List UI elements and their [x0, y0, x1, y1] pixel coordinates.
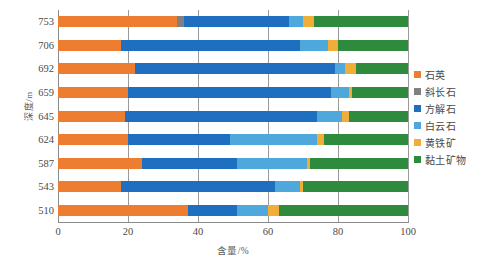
bar-segment[interactable]: [237, 158, 307, 169]
bar-row[interactable]: [58, 87, 408, 98]
legend-label: 方解石: [425, 101, 456, 116]
bar-row[interactable]: [58, 205, 408, 216]
bar-segment[interactable]: [237, 205, 269, 216]
bar-row[interactable]: [58, 40, 408, 51]
bar-segment[interactable]: [342, 111, 349, 122]
bar-segment[interactable]: [58, 181, 121, 192]
x-axis-line: [58, 222, 409, 223]
legend-item[interactable]: 白云石: [414, 117, 486, 134]
bar-segment[interactable]: [58, 16, 177, 27]
stacked-bar-chart: 深度/m 753706692659645624587543510 0204060…: [0, 0, 488, 271]
bar-segment[interactable]: [289, 16, 303, 27]
chart-legend: 石英斜长石方解石白云石黄铁矿黏土矿物: [414, 66, 486, 168]
x-tick-label: 60: [248, 226, 288, 237]
bar-segment[interactable]: [125, 111, 318, 122]
bar-segment[interactable]: [135, 63, 335, 74]
bar-segment[interactable]: [310, 158, 408, 169]
bar-segment[interactable]: [324, 134, 408, 145]
legend-swatch-icon: [414, 105, 421, 112]
bar-segment[interactable]: [184, 16, 289, 27]
legend-label: 斜长石: [425, 84, 456, 99]
x-tick-label: 0: [38, 226, 78, 237]
x-tick-label: 40: [178, 226, 218, 237]
bar-segment[interactable]: [58, 40, 121, 51]
plot-area: [58, 10, 408, 222]
bar-segment[interactable]: [58, 205, 188, 216]
bar-segment[interactable]: [303, 181, 408, 192]
bar-segment[interactable]: [356, 63, 409, 74]
bar-segment[interactable]: [188, 205, 237, 216]
bar-segment[interactable]: [177, 16, 184, 27]
y-tick-label: 543: [8, 181, 54, 192]
bar-segment[interactable]: [230, 134, 318, 145]
y-tick-label: 587: [8, 158, 54, 169]
y-tick-label: 659: [8, 87, 54, 98]
legend-item[interactable]: 方解石: [414, 100, 486, 117]
bar-segment[interactable]: [58, 158, 142, 169]
bar-segment[interactable]: [328, 40, 339, 51]
bar-segment[interactable]: [128, 134, 230, 145]
bar-segment[interactable]: [128, 87, 331, 98]
bar-row[interactable]: [58, 111, 408, 122]
bar-segment[interactable]: [345, 63, 356, 74]
y-tick-label: 692: [8, 63, 54, 74]
legend-swatch-icon: [414, 71, 421, 78]
y-tick-label: 706: [8, 40, 54, 51]
bar-segment[interactable]: [349, 111, 409, 122]
bar-segment[interactable]: [335, 63, 346, 74]
bar-segment[interactable]: [58, 63, 135, 74]
legend-item[interactable]: 斜长石: [414, 83, 486, 100]
bar-row[interactable]: [58, 16, 408, 27]
x-tick-label: 20: [108, 226, 148, 237]
bar-segment[interactable]: [317, 134, 324, 145]
bar-segment[interactable]: [142, 158, 237, 169]
gridline-100: [408, 10, 409, 222]
bar-segment[interactable]: [58, 111, 125, 122]
bar-segment[interactable]: [58, 134, 128, 145]
legend-label: 石英: [425, 67, 446, 82]
y-axis-tick-labels: 753706692659645624587543510: [0, 10, 54, 222]
bar-segment[interactable]: [275, 181, 300, 192]
bar-row[interactable]: [58, 63, 408, 74]
y-tick-label: 510: [8, 205, 54, 216]
legend-swatch-icon: [414, 156, 421, 163]
legend-swatch-icon: [414, 139, 421, 146]
legend-label: 黄铁矿: [425, 135, 456, 150]
x-tick-label: 80: [318, 226, 358, 237]
x-axis-title: 含量/%: [58, 243, 408, 257]
bar-row[interactable]: [58, 181, 408, 192]
bar-segment[interactable]: [331, 87, 349, 98]
legend-item[interactable]: 石英: [414, 66, 486, 83]
y-tick-label: 753: [8, 16, 54, 27]
x-axis-tick-labels: 020406080100: [58, 226, 408, 242]
bar-segment[interactable]: [303, 16, 314, 27]
bar-row[interactable]: [58, 134, 408, 145]
legend-swatch-icon: [414, 122, 421, 129]
bar-row[interactable]: [58, 158, 408, 169]
bar-segment[interactable]: [300, 40, 328, 51]
bar-segment[interactable]: [268, 205, 279, 216]
bar-segment[interactable]: [121, 181, 275, 192]
bar-segment[interactable]: [58, 87, 128, 98]
legend-swatch-icon: [414, 88, 421, 95]
bar-segment[interactable]: [352, 87, 408, 98]
y-tick-label: 645: [8, 111, 54, 122]
x-tick-label: 100: [388, 226, 428, 237]
bar-rows: [58, 10, 408, 222]
legend-item[interactable]: 黏土矿物: [414, 151, 486, 168]
legend-item[interactable]: 黄铁矿: [414, 134, 486, 151]
y-tick-label: 624: [8, 134, 54, 145]
bar-segment[interactable]: [317, 111, 342, 122]
bar-segment[interactable]: [279, 205, 409, 216]
bar-segment[interactable]: [338, 40, 408, 51]
bar-segment[interactable]: [314, 16, 409, 27]
legend-label: 黏土矿物: [425, 152, 466, 167]
legend-label: 白云石: [425, 118, 456, 133]
bar-segment[interactable]: [121, 40, 300, 51]
